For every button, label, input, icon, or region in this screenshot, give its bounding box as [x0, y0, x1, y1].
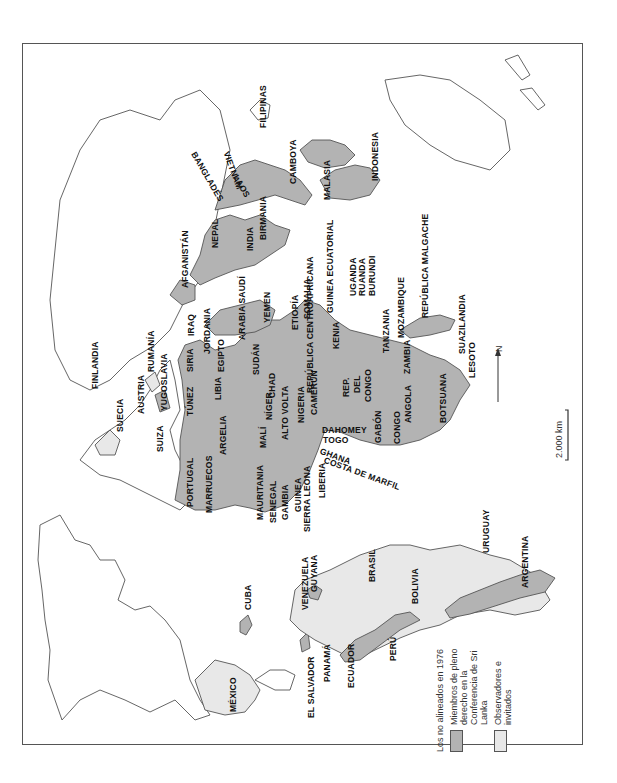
- label-camboya: CAMBOYA: [288, 139, 298, 184]
- scale-bar: [565, 410, 568, 460]
- label-lesoto: LESOTO: [467, 342, 477, 378]
- label-botsuana: BOTSUANA: [438, 373, 448, 423]
- label-sierra-leona: SIERRA LEONA: [302, 466, 312, 532]
- label-peru: PERÚ: [388, 637, 398, 661]
- label-congo: CONGO: [392, 411, 402, 444]
- label-finlandia: FINLANDIA: [90, 341, 100, 389]
- label-malasia: MALASIA: [322, 160, 332, 200]
- label-rumania: RUMANÍA: [146, 330, 156, 372]
- label-siria: SIRIA: [185, 348, 195, 372]
- label-portugal: PORTUGAL: [185, 458, 195, 507]
- label-cuba: CUBA: [243, 585, 253, 610]
- label-rep-congo-1: REP.: [341, 377, 351, 397]
- label-gambia: GAMBIA: [280, 484, 290, 520]
- label-iraq: IRAQ: [186, 314, 196, 336]
- legend-swatch-observer: [494, 730, 507, 752]
- label-el-salvador: EL SALVADOR: [306, 656, 316, 718]
- label-brasil: BRASIL: [367, 549, 377, 582]
- label-chad: CHAD: [267, 373, 277, 398]
- label-tunez: TÚNEZ: [185, 387, 195, 416]
- label-tanzania: TANZANIA: [381, 309, 391, 353]
- label-dahomey: DAHOMEY: [322, 425, 367, 435]
- label-togo: TOGO: [323, 435, 349, 445]
- label-uruguay: URUGUAY: [481, 509, 491, 553]
- label-ecuador: ECUADOR: [346, 644, 356, 688]
- label-angola: ANGOLA: [403, 385, 413, 423]
- label-afganistan: AFGANISTÁN: [180, 230, 190, 288]
- label-austria: AUSTRIA: [136, 375, 146, 414]
- label-alto-volta: ALTO VOLTA: [280, 386, 290, 440]
- label-filipinas: FILIPINAS: [258, 85, 268, 128]
- legend-label-member: Miembros de pleno derecho en la Conferen…: [449, 645, 489, 725]
- label-senegal: SENEGAL: [268, 481, 278, 524]
- north-america-landmass: [38, 515, 210, 720]
- label-somalia: SOMALIA: [302, 278, 312, 319]
- label-zambia: ZAMBIA: [402, 340, 412, 374]
- pacific-island-shape: [520, 88, 545, 110]
- label-mali: MALÍ: [258, 426, 268, 448]
- new-zealand-shape: [505, 55, 530, 80]
- label-rep-congo-2: DEL: [352, 375, 362, 393]
- label-argentina: ARGENTINA: [520, 536, 530, 588]
- cuba-shape: [240, 615, 252, 635]
- label-yugoslavia: YUGOSLAVIA: [159, 353, 169, 411]
- label-indonesia: INDONESIA: [370, 132, 380, 181]
- north-label: N: [494, 346, 504, 353]
- legend-item-member: Miembros de pleno derecho en la Conferen…: [449, 645, 489, 752]
- legend-swatch-member: [450, 730, 463, 752]
- central-america-shape: [255, 670, 295, 690]
- label-rep-centroafricana: REPÚBLICA CENTROAFRICANA: [305, 256, 315, 393]
- label-gabon: GABÓN: [373, 410, 383, 443]
- legend-label-observer: Observadores e invitados: [493, 645, 513, 725]
- label-mozambique: MOZAMBIQUE: [396, 277, 406, 338]
- label-guinea-ecuatorial: GUINEA ECUATORIAL: [325, 220, 335, 313]
- label-argelia: ARGELIA: [218, 415, 228, 455]
- label-panama: PANAMÁ: [322, 644, 332, 682]
- label-mauritania: MAURITANIA: [255, 465, 265, 520]
- label-bolivia: BOLIVIA: [410, 568, 420, 604]
- label-jordania: JORDANIA: [202, 308, 212, 354]
- label-egipto: EGIPTO: [216, 339, 226, 372]
- label-libia: LIBIA: [213, 377, 223, 400]
- label-suazilandia: SUAZILANDIA: [457, 294, 467, 354]
- label-etiopia: ETIOPÍA: [290, 295, 300, 330]
- south-america-shape: [290, 545, 550, 660]
- label-liberia: LIBERIA: [317, 463, 327, 498]
- label-republica-malgache: REPÚBLICA MALGACHE: [420, 214, 430, 318]
- label-burundi: BURUNDI: [367, 255, 377, 296]
- label-ruanda: RUANDA: [357, 258, 367, 296]
- legend-title: Los no alineados en 1976: [435, 645, 445, 752]
- scale-label: 2.000 km: [554, 421, 564, 458]
- label-birmania: BIRMANIA: [258, 196, 268, 240]
- label-yemen: YEMEN: [262, 292, 272, 323]
- australia-shape: [385, 75, 510, 170]
- label-suiza: SUIZA: [155, 426, 165, 453]
- label-sudan: SUDÁN: [251, 344, 261, 375]
- label-suecia: SUECIA: [115, 399, 125, 432]
- label-arabia: ARABIA SAUDÍ: [237, 276, 247, 340]
- label-rep-congo-3: CONGO: [363, 369, 373, 402]
- legend: Los no alineados en 1976 Miembros de ple…: [435, 645, 517, 752]
- label-guyana: GUYANA: [309, 555, 319, 592]
- madagascar-shape: [400, 315, 455, 338]
- label-marruecos: MARRUECOS: [204, 455, 214, 513]
- label-mexico: MÉXICO: [228, 677, 238, 712]
- label-india: INDIA: [245, 227, 255, 251]
- label-nepal: NEPAL: [210, 219, 220, 248]
- legend-item-observer: Observadores e invitados: [493, 645, 513, 752]
- label-kenia: KENIA: [331, 322, 341, 349]
